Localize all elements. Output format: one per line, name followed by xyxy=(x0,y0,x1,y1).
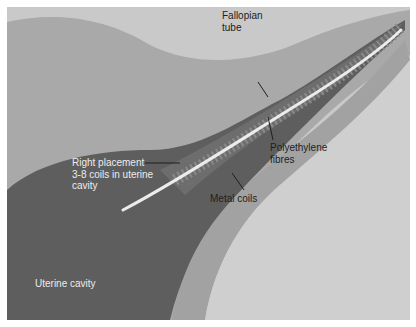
label-polyethylene-fibres: Polyethylene fibres xyxy=(270,142,327,165)
label-uterine-cavity: Uterine cavity xyxy=(35,278,96,290)
label-fallopian-tube: Fallopian tube xyxy=(222,10,263,33)
diagram-frame: Fallopian tube Polyethylene fibres Right… xyxy=(7,7,410,320)
anatomy-illustration xyxy=(7,7,410,320)
label-metal-coils: Metal coils xyxy=(210,193,257,205)
label-right-placement: Right placement 3-8 coils in uterine cav… xyxy=(72,157,153,192)
